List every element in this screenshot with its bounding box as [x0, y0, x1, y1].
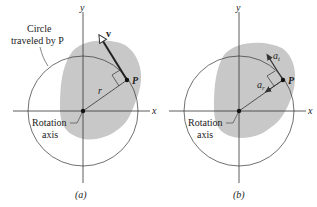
point-p [125, 78, 129, 82]
x-axis-label: x [307, 105, 313, 116]
rigid-body-shape [214, 43, 295, 138]
panel-b: x y ar at P Rotation axis (b) [169, 2, 313, 201]
radius-label: r [98, 85, 102, 96]
circle-label-line2: traveled by P [11, 35, 64, 46]
circle-label-line1: Circle [27, 23, 52, 34]
velocity-label: v [106, 28, 111, 39]
point-p-label: P [288, 75, 295, 86]
rotation-label-line1: Rotation [32, 117, 66, 128]
rotation-label-line2: axis [42, 129, 58, 140]
x-axis-label: x [151, 105, 157, 116]
panel-a: x y r v P Circle traveled by P Rotation … [11, 2, 157, 201]
rotation-label-line1: Rotation [188, 117, 222, 128]
point-p-label: P [132, 75, 139, 86]
y-axis-label: y [235, 2, 241, 13]
origin-dot [81, 109, 85, 113]
origin-dot [237, 109, 241, 113]
circle-label-leader [40, 47, 48, 66]
rotation-label-line2: axis [197, 129, 213, 140]
y-axis-label: y [79, 2, 85, 13]
caption-b: (b) [233, 189, 245, 201]
point-p [281, 78, 285, 82]
rotation-diagram: x y r v P Circle traveled by P Rotation … [0, 0, 317, 207]
caption-a: (a) [75, 189, 87, 201]
